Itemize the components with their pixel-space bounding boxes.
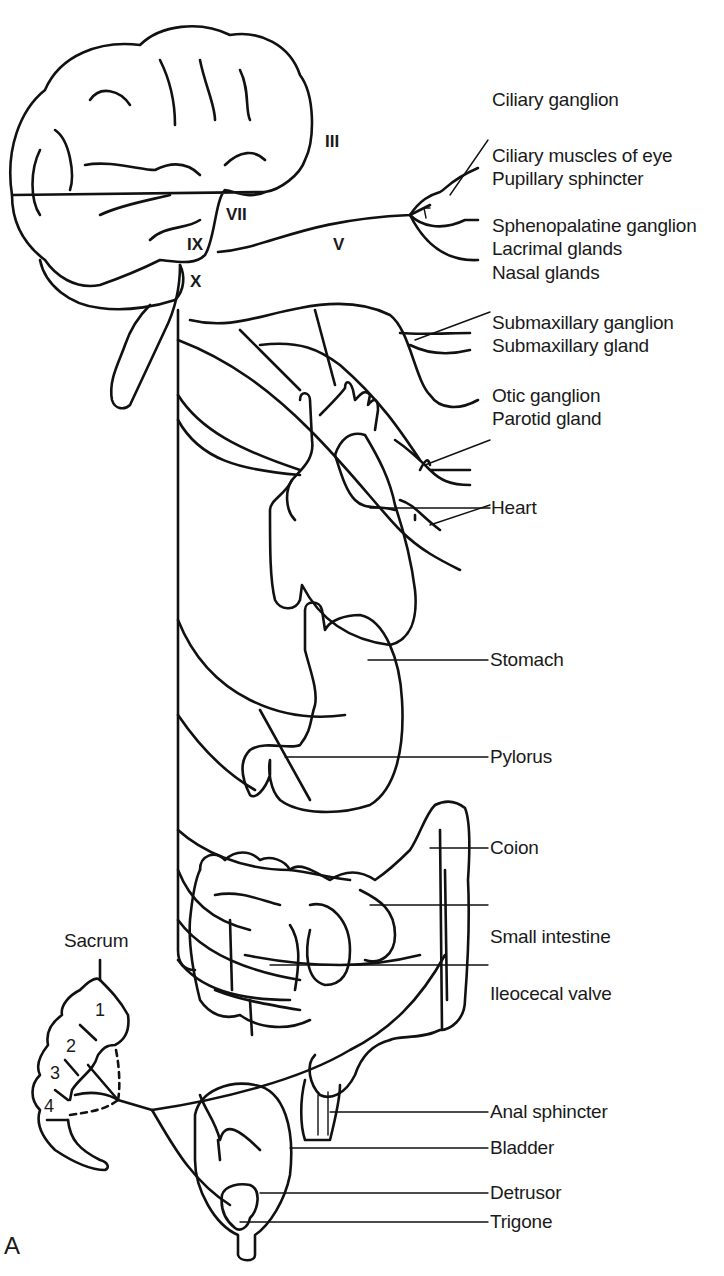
label-otic-ganglion: Otic ganglion xyxy=(492,385,600,407)
label-bladder: Bladder xyxy=(490,1137,554,1159)
cranial-nerve-x-label: X xyxy=(190,272,201,292)
label-ileocecal-valve: Ileocecal valve xyxy=(490,983,612,1005)
brain-illustration xyxy=(10,26,312,408)
cranial-nerve-iii-label: III xyxy=(325,132,339,152)
label-submaxillary-ganglion: Submaxillary ganglion xyxy=(492,312,674,334)
label-ciliary-muscles: Ciliary muscles of eye xyxy=(492,145,672,167)
label-stomach: Stomach xyxy=(490,649,564,671)
sacral-segment-2: 2 xyxy=(66,1036,76,1057)
label-colon: Coion xyxy=(490,837,539,859)
label-sphenopalatine-ganglion: Sphenopalatine ganglion xyxy=(492,215,697,237)
label-pupillary-sphincter: Pupillary sphincter xyxy=(492,168,643,190)
label-sacrum: Sacrum xyxy=(64,930,128,952)
label-nasal-glands: Nasal glands xyxy=(492,262,599,284)
label-small-intestine: Small intestine xyxy=(490,926,611,948)
label-heart: Heart xyxy=(491,497,536,519)
label-submaxillary-gland: Submaxillary gland xyxy=(492,335,649,357)
label-parotid-gland: Parotid gland xyxy=(492,408,601,430)
sacral-segment-4: 4 xyxy=(44,1096,54,1117)
bladder-illustration xyxy=(195,1084,291,1261)
sacral-segment-3: 3 xyxy=(50,1063,60,1084)
label-anal-sphincter: Anal sphincter xyxy=(490,1101,608,1123)
parasympathetic-diagram xyxy=(0,0,724,1276)
label-trigone: Trigone xyxy=(490,1211,552,1233)
cranial-nerve-vii-label: VII xyxy=(226,205,247,225)
cranial-nerve-ix-label: IX xyxy=(187,235,203,255)
panel-letter: A xyxy=(4,1232,20,1260)
label-pylorus: Pylorus xyxy=(490,746,552,768)
label-lacrimal-glands: Lacrimal glands xyxy=(492,238,622,260)
sacral-segment-1: 1 xyxy=(95,1000,105,1021)
intestines-illustration xyxy=(190,802,470,1140)
cranial-nerve-v-label: V xyxy=(333,235,344,255)
label-detrusor: Detrusor xyxy=(490,1182,561,1204)
label-ciliary-ganglion: Ciliary ganglion xyxy=(492,89,619,111)
